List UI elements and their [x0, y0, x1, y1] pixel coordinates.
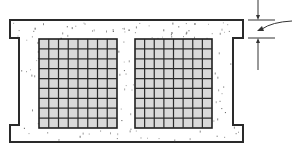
thickness-dimension	[248, 0, 292, 70]
leader-line	[262, 21, 292, 29]
arrow-up-icon	[256, 38, 260, 43]
leader-arrow-icon	[257, 26, 264, 31]
arrow-down-icon	[256, 15, 260, 20]
slab-cross-section-diagram	[0, 0, 294, 152]
right-mesh	[135, 39, 212, 128]
left-mesh	[39, 39, 117, 128]
